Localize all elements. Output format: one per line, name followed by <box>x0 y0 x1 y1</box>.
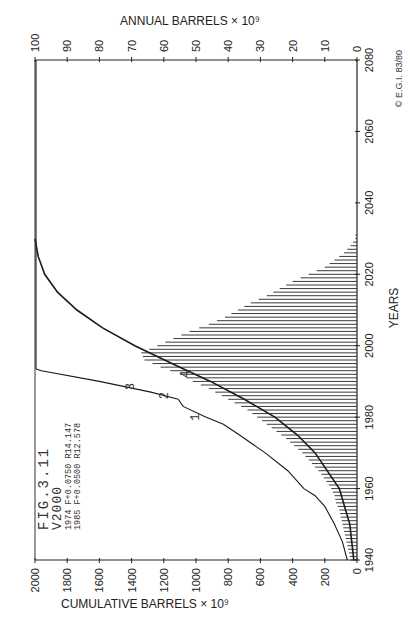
year-tick-label: 1960 <box>363 476 375 500</box>
cumulative-tick-label: 200 <box>319 568 331 586</box>
annual-tick-label: 90 <box>61 40 73 52</box>
cumulative-tick-label: 400 <box>287 568 299 586</box>
cumulative-tick-label: 600 <box>254 568 266 586</box>
annual-tick-label: 30 <box>254 40 266 52</box>
cumulative-tick-label: 800 <box>222 568 234 586</box>
annual-tick-label: 10 <box>319 40 331 52</box>
annual-tick-label: 40 <box>222 40 234 52</box>
annual-production-bars <box>141 235 357 560</box>
year-tick-label: 2060 <box>363 119 375 143</box>
cumulative-tick-label: 1400 <box>126 568 138 592</box>
years-axis-title: YEARS <box>387 288 401 329</box>
year-tick-label: 1980 <box>363 405 375 429</box>
curve-label: 2 <box>158 392 172 399</box>
annual-tick-label: 70 <box>126 40 138 52</box>
curve-labels: 1234 <box>124 371 203 421</box>
cumulative-tick-label: 0 <box>351 568 363 574</box>
year-tick-label: 2000 <box>363 333 375 357</box>
year-tick-label: 1940 <box>363 548 375 572</box>
cumulative-tick-label: 2000 <box>29 568 41 592</box>
curve-label: 4 <box>179 371 193 378</box>
annual-tick-label: 50 <box>190 40 202 52</box>
curve-3-plateau <box>36 369 41 371</box>
figure-subtitle: V2000 <box>50 486 65 530</box>
year-tick-label: 2040 <box>363 191 375 215</box>
copyright-text: © E.G.I. 83/80 <box>394 50 404 107</box>
curve-label: 1 <box>189 414 203 421</box>
annual-axis-title: ANNUAL BARRELS × 10⁹ <box>120 14 260 28</box>
annual-tick-label: 100 <box>29 34 41 52</box>
annual-tick-label: 60 <box>158 40 170 52</box>
annual-tick-label: 20 <box>287 40 299 52</box>
annual-tick-label: 80 <box>93 40 105 52</box>
curve-label: 3 <box>124 383 138 390</box>
cumulative-tick-label: 1000 <box>190 568 202 592</box>
year-tick-label: 2080 <box>363 48 375 72</box>
figure-annotation: FIG.3.11 V2000 1974 F+0.0750 R14.147 198… <box>36 423 83 530</box>
cumulative-tick-label: 1200 <box>158 568 170 592</box>
year-tick-label: 2020 <box>363 262 375 286</box>
figure-param-1985: 1985 F+0.0500 R12.578 <box>73 423 83 530</box>
cumulative-axis-title: CUMULATIVE BARRELS × 10⁹ <box>61 597 229 611</box>
chart: 0102030405060708090100020040060080010001… <box>0 0 410 639</box>
cumulative-tick-label: 1800 <box>61 568 73 592</box>
cumulative-tick-label: 1600 <box>93 568 105 592</box>
annual-tick-label: 0 <box>351 46 363 52</box>
